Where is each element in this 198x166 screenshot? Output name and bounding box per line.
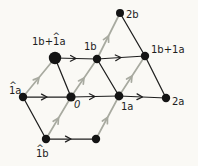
lattice-edge-plain	[55, 58, 71, 97]
hat-accent: ^	[53, 31, 61, 41]
point-label: 1a	[121, 101, 134, 112]
lattice-point-1a	[115, 92, 124, 101]
point-label: 2b	[126, 9, 139, 20]
lattice-edge-plain	[97, 59, 119, 96]
point-label: 1b+1a	[32, 36, 66, 47]
point-label: 0	[74, 99, 80, 110]
point-label: 2a	[172, 96, 185, 107]
hat-accent: ^	[36, 143, 44, 153]
lattice-diagram: 2b1b+1a^1b1b+1a1a^01a2a1b^	[0, 0, 198, 166]
lattice-point-2a	[162, 94, 170, 102]
lattice-point-1b	[93, 55, 101, 63]
lattice-point-2b	[116, 9, 124, 17]
lattice-point-1b-plus-neg1a	[49, 52, 61, 64]
point-label: 1b+1a	[151, 44, 185, 55]
lattice-edge-plain	[23, 97, 46, 139]
lattice-point-1a-minus-1b	[92, 135, 100, 143]
hat-accent: ^	[9, 80, 17, 90]
lattice-point-neg1b	[42, 135, 50, 143]
lattice-edge-plain	[145, 56, 166, 98]
point-label: 1b	[84, 41, 97, 52]
lattice-point-1b-plus-1a	[141, 52, 149, 60]
notebook-page: 2b1b+1a^1b1b+1a1a^01a2a1b^	[0, 0, 198, 166]
